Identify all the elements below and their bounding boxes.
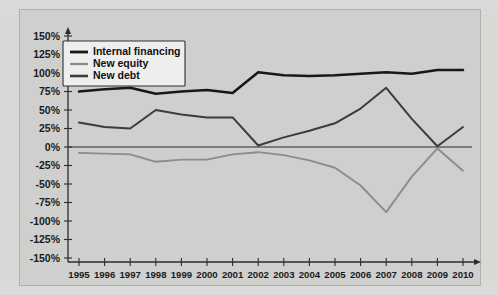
x-tick-label: 2009 (427, 269, 448, 280)
y-tick-labels: 150%125%100%75%50%25%0%-25%-50%-75%-100%… (30, 30, 61, 264)
x-tick-label: 2007 (376, 269, 397, 280)
y-tick-label: -25% (35, 159, 60, 171)
x-tick-label: 2003 (273, 269, 294, 280)
legend-label-new-equity: New equity (93, 57, 149, 69)
x-tick-label: 1998 (145, 269, 167, 280)
series-group (79, 70, 463, 212)
x-tick-label: 1995 (68, 269, 90, 280)
y-tick-label: 25% (39, 122, 61, 134)
y-tick-label: -50% (35, 178, 60, 190)
y-axis-arrowhead (65, 27, 71, 34)
y-tick-label: 75% (39, 85, 61, 97)
y-tick-label: -150% (30, 252, 61, 264)
line-chart: 150%125%100%75%50%25%0%-25%-50%-75%-100%… (0, 0, 498, 295)
x-tick-label: 2001 (222, 269, 244, 280)
y-tick-label: 100% (33, 67, 61, 79)
x-tick-label: 2006 (350, 269, 371, 280)
legend-label-internal-financing: Internal financing (93, 45, 181, 57)
x-tick-label: 1997 (120, 269, 141, 280)
x-tick-label: 2000 (196, 269, 217, 280)
y-tick-label: 125% (33, 48, 61, 60)
x-axis-group: 1995199619971998199920002001200220032004… (68, 258, 481, 280)
x-tick-label: 2002 (248, 269, 269, 280)
series-line-new-equity (79, 148, 463, 212)
y-tick-label: -100% (30, 215, 61, 227)
y-tick-label: -75% (35, 196, 60, 208)
x-tick-label: 1999 (171, 269, 192, 280)
legend: Internal financing New equity New debt (63, 41, 185, 86)
x-tick-label: 2004 (299, 269, 321, 280)
y-tick-label: 150% (33, 30, 61, 42)
x-tick-labels: 1995199619971998199920002001200220032004… (68, 269, 473, 280)
x-tick-label: 2008 (401, 269, 423, 280)
y-tick-label: 0% (45, 141, 61, 153)
y-tick-label: -125% (30, 233, 61, 245)
x-tick-label: 2005 (324, 269, 346, 280)
x-axis-arrowhead (474, 259, 481, 265)
legend-label-new-debt: New debt (93, 69, 140, 81)
x-tick-label: 1996 (94, 269, 115, 280)
x-tick-label: 2010 (452, 269, 473, 280)
series-line-new-debt (79, 88, 463, 146)
chart-page: 150%125%100%75%50%25%0%-25%-50%-75%-100%… (0, 0, 498, 295)
y-tick-label: 50% (39, 104, 61, 116)
